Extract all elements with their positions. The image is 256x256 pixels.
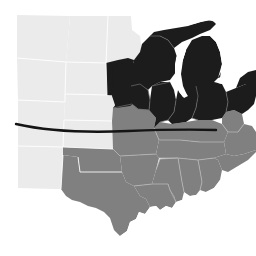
state-montana[interactable] — [17, 15, 70, 62]
state-south-dakota[interactable] — [65, 62, 107, 95]
state-wyoming[interactable] — [17, 58, 66, 102]
state-kansas[interactable] — [63, 120, 113, 149]
map-figure: United States (Central and Midwest) — [0, 0, 256, 256]
state-north-dakota[interactable] — [66, 16, 108, 63]
state-new-mexico[interactable] — [18, 146, 63, 189]
state-colorado[interactable] — [18, 100, 65, 147]
us-map-svg[interactable] — [0, 0, 256, 256]
state-tennessee[interactable] — [156, 140, 226, 160]
